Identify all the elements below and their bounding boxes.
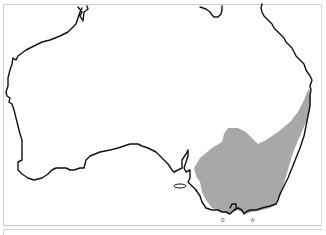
island-mark-right: h — [251, 217, 255, 223]
distribution-area — [194, 88, 311, 214]
coastline-gulf-carpentaria — [200, 6, 222, 17]
island-mark-left: 0 — [221, 217, 225, 223]
lower-panel — [3, 229, 322, 235]
coastline-mainland — [6, 6, 174, 180]
kangaroo-island — [174, 184, 186, 188]
australia-map: 0 h — [0, 0, 326, 235]
